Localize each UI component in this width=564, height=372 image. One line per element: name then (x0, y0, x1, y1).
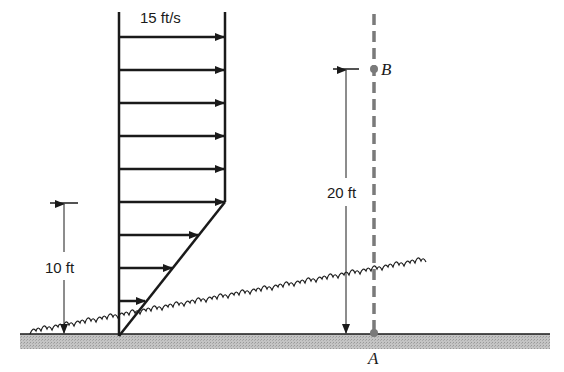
streamline-ab (370, 14, 378, 337)
point-a-label: A (368, 350, 378, 367)
height-20ft-label: 20 ft (327, 184, 356, 201)
dimension-20ft (333, 69, 359, 333)
height-10ft-label: 10 ft (45, 259, 74, 276)
velocity-profile-diagram (0, 0, 564, 372)
point-b-label: B (381, 61, 391, 78)
point-b-marker (370, 65, 378, 73)
velocity-label: 15 ft/s (140, 10, 181, 25)
grass-icon (30, 258, 426, 334)
point-a-marker (370, 329, 378, 337)
velocity-profile (119, 12, 225, 336)
ground (20, 258, 550, 349)
